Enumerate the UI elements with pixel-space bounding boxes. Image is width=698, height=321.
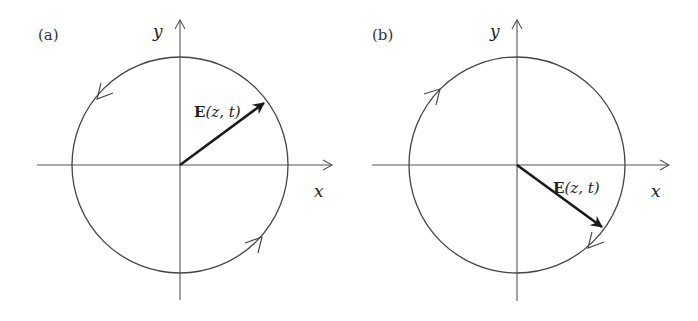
panel-a-label: (a) — [38, 26, 59, 44]
y-axis-label: y — [489, 21, 500, 41]
e-field-label: E(z, t) — [194, 103, 241, 121]
e-field-symbol: E — [553, 179, 564, 197]
e-field-args: (z, t) — [564, 179, 599, 197]
panel-b-label: (b) — [372, 26, 393, 44]
direction-arrow-upper-left-icon — [97, 83, 113, 99]
y-axis-label: y — [152, 21, 163, 41]
e-field-args: (z, t) — [205, 103, 240, 121]
panel-b: (b) y x E(z, t) — [372, 20, 669, 301]
e-field-label: E(z, t) — [553, 179, 600, 197]
polarization-diagram: (a) y x E(z, t) (b) y x E(z, t) — [0, 0, 698, 321]
panel-a: (a) y x E(z, t) — [37, 20, 332, 300]
e-field-symbol: E — [194, 103, 205, 121]
direction-arrow-lower-right-icon — [588, 232, 604, 248]
x-axis-label: x — [314, 181, 324, 201]
x-axis-label: x — [651, 181, 661, 201]
